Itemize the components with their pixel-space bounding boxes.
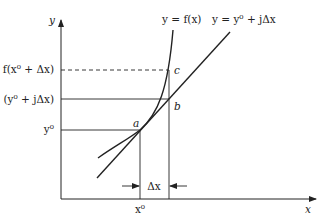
delta-x-label: Δx — [147, 180, 161, 192]
function-curve-label: y = f(x) — [161, 13, 201, 25]
x-axis-label: x — [305, 203, 311, 215]
point-b-label: b — [174, 100, 181, 112]
x0-tick-label: x⁰ — [135, 203, 145, 215]
linear-estimate-tick-label: (y⁰ + jΔx) — [3, 93, 54, 105]
tangent-line-label: y = y⁰ + jΔx — [211, 13, 276, 25]
tangent-line — [97, 32, 230, 178]
y-axis-label: y — [48, 14, 56, 26]
diagram-canvas: y x y = f(x) y = y⁰ + jΔx c b a f(x⁰ + Δ… — [0, 0, 325, 221]
function-curve — [98, 30, 173, 158]
point-a-label: a — [133, 117, 139, 129]
y0-tick-label: y⁰ — [43, 123, 54, 135]
f-shift-tick-label: f(x⁰ + Δx) — [3, 63, 54, 75]
point-c-label: c — [174, 64, 180, 76]
